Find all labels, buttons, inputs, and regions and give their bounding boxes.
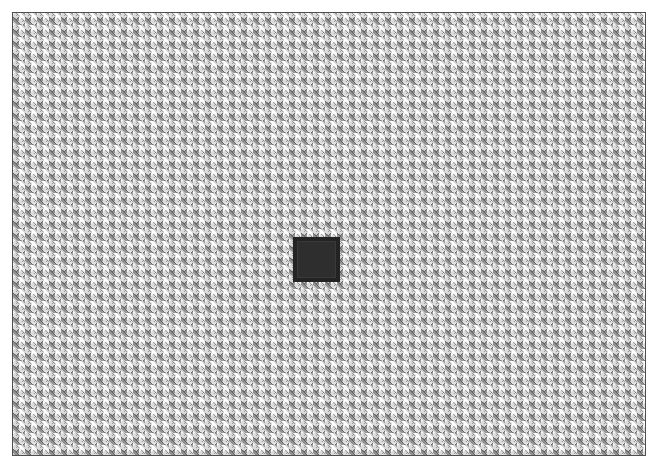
center-dark-square — [293, 237, 340, 282]
textured-panel-frame — [12, 12, 646, 456]
image-canvas — [0, 0, 659, 470]
center-dark-square-inner-panel — [297, 241, 336, 278]
weave-interlace-shading — [13, 13, 645, 455]
